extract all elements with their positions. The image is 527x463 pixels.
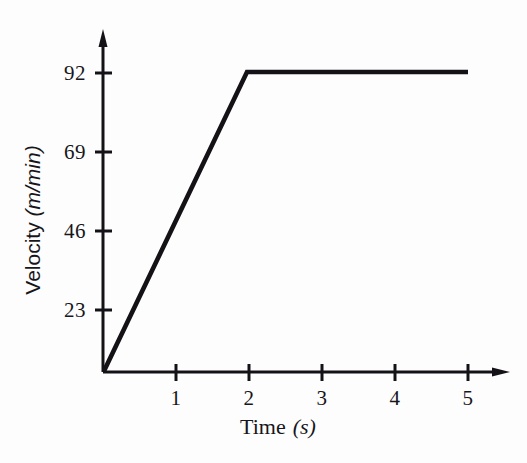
y-tick-label-23: 23 [42, 298, 86, 323]
x-tick-label-3: 3 [317, 386, 328, 411]
velocity-data-line [104, 72, 468, 371]
x-tick-label-5: 5 [463, 386, 474, 411]
y-tick-label-92: 92 [42, 61, 86, 86]
y-axis-title-unit: (m/min) [21, 145, 44, 216]
y-axis-arrow-icon [99, 29, 108, 47]
y-axis-title: Velocity (m/min) [21, 145, 45, 294]
y-tick-label-46: 46 [42, 219, 86, 244]
x-axis-title-text: Time [240, 414, 286, 439]
x-tick-label-1: 1 [171, 386, 182, 411]
x-tick-label-2: 2 [244, 386, 255, 411]
x-axis-arrow-icon [492, 368, 510, 377]
x-tick-label-4: 4 [390, 386, 401, 411]
x-axis-title: Time(s) [240, 414, 316, 440]
velocity-time-chart: 92 69 46 23 1 2 3 4 5 Time(s) Velocity (… [0, 0, 527, 463]
y-tick-label-69: 69 [42, 140, 86, 165]
x-axis-title-unit: (s) [293, 414, 316, 439]
y-axis-title-text: Velocity [21, 222, 44, 294]
